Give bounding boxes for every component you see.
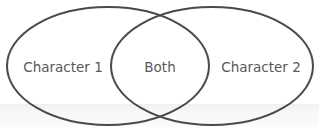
left-set-label: Character 1 <box>23 59 103 75</box>
intersection-label: Both <box>144 59 175 75</box>
right-set-label: Character 2 <box>221 59 301 75</box>
venn-diagram: Character 1 Both Character 2 <box>0 0 319 127</box>
